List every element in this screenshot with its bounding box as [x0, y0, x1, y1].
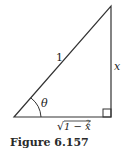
- angle-arc: [31, 98, 41, 117]
- figure-caption: Figure 6.157: [10, 136, 89, 149]
- angle-label: θ: [41, 97, 48, 110]
- triangle-diagram: 1 x θ √ 1 − x 2: [0, 0, 128, 150]
- hypotenuse-label: 1: [56, 51, 63, 64]
- opposite-label: x: [114, 60, 121, 73]
- svg-text:2: 2: [86, 119, 90, 127]
- right-angle-marker: [103, 109, 111, 117]
- adjacent-label: √ 1 − x 2: [57, 119, 91, 133]
